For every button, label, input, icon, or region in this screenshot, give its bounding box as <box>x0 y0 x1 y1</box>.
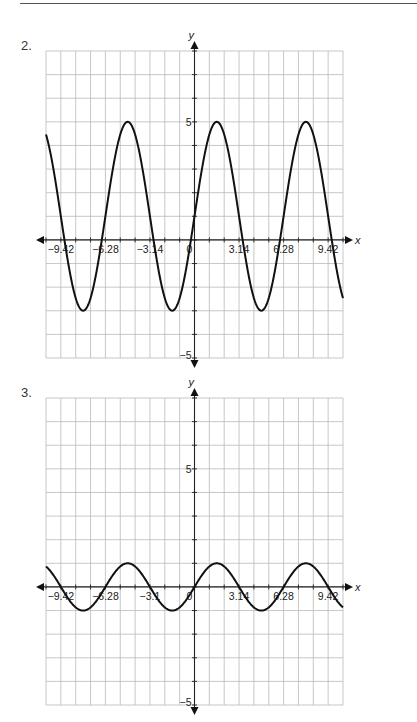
x-axis-left-arrow-icon <box>36 236 44 244</box>
x-axis-left-arrow-icon <box>36 583 44 591</box>
y-axis-label: y <box>188 376 196 388</box>
y-axis-up-arrow-icon <box>191 388 199 396</box>
y-tick-label: 5 <box>186 463 192 475</box>
x-tick-label: 6.28 <box>273 590 294 602</box>
x-axis-label: x <box>354 234 361 246</box>
x-tick-label: −9.42 <box>48 243 75 255</box>
y-axis-label: y <box>188 29 196 41</box>
x-tick-label: 9.42 <box>318 243 339 255</box>
y-axis-up-arrow-icon <box>191 41 199 49</box>
y-tick-label: −5 <box>180 349 192 361</box>
axes: xy−9.42−6.28−3.1403.146.289.425−5 <box>36 29 361 368</box>
chart-3: xy−9.42−6.28−3.103.146.289.425−5 <box>36 376 361 715</box>
axes: xy−9.42−6.28−3.103.146.289.425−5 <box>36 376 361 715</box>
chart-problem-2: xy−9.42−6.28−3.1403.146.289.425−5xy−9.42… <box>0 0 417 722</box>
y-axis-down-arrow-icon <box>191 707 199 715</box>
x-axis-label: x <box>354 581 361 593</box>
y-axis-down-arrow-icon <box>191 360 199 368</box>
x-tick-label: 3.14 <box>229 243 250 255</box>
x-tick-label: −3.14 <box>137 243 164 255</box>
y-tick-label: 5 <box>186 116 192 128</box>
x-tick-label: −6.28 <box>92 243 119 255</box>
x-axis-right-arrow-icon <box>345 236 353 244</box>
x-tick-label: 6.28 <box>273 243 294 255</box>
y-tick-label: −5 <box>180 696 192 708</box>
chart-2: xy−9.42−6.28−3.1403.146.289.425−5 <box>36 29 361 368</box>
x-axis-right-arrow-icon <box>345 583 353 591</box>
